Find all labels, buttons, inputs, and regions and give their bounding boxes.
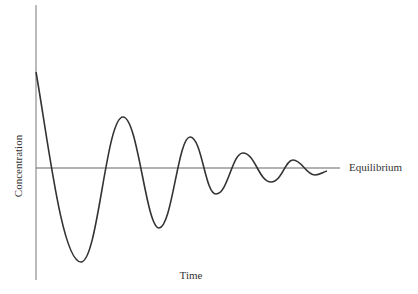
x-axis-label: Time [171, 269, 211, 281]
plot-area [0, 0, 418, 294]
chart: Concentration Time Equilibrium [0, 0, 418, 294]
concentration-curve [36, 72, 327, 262]
equilibrium-label: Equilibrium [349, 161, 402, 173]
y-axis-label: Concentration [12, 126, 24, 206]
